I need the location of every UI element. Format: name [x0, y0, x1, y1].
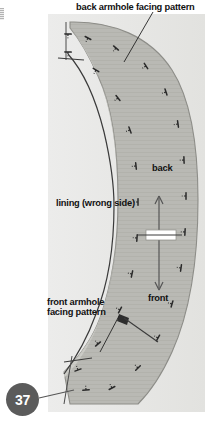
label-front-armhole-facing-pattern: front armhole facing pattern — [47, 297, 106, 318]
label-front-facing-line2: facing pattern — [47, 307, 106, 317]
label-front-facing-line1: front armhole — [47, 297, 106, 307]
label-lining-wrong-side: lining (wrong side) — [56, 198, 135, 208]
figure-number: 37 — [15, 392, 30, 408]
label-back: back — [152, 163, 172, 173]
pattern-illustration — [0, 0, 205, 426]
label-back-armhole-facing-pattern: back armhole facing pattern — [76, 2, 195, 12]
figure-number-badge: 37 — [6, 383, 39, 416]
label-front: front — [148, 293, 168, 303]
